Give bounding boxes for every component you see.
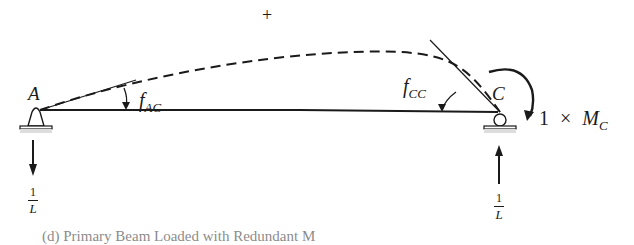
moment-symbol: M [582, 107, 599, 129]
reaction-label-a: 1 L [28, 186, 38, 215]
moment-coefficient: 1 [539, 107, 549, 129]
beam-right [300, 110, 498, 112]
reaction-a-numerator: 1 [30, 186, 36, 198]
deflected-shape [40, 52, 500, 112]
support-label-a: A [28, 84, 40, 103]
reaction-c-numerator: 1 [496, 192, 502, 204]
angle-subscript-a: AC [145, 100, 162, 115]
arc-arrowhead-a [122, 102, 130, 110]
moment-subscript: C [599, 118, 608, 133]
reaction-a-denominator: L [29, 202, 36, 215]
tangent-at-c [430, 40, 500, 112]
tangent-at-a [40, 80, 136, 110]
angle-label-fcc: fCC [403, 76, 426, 96]
reaction-arrow-down-a [29, 140, 37, 176]
support-label-c: C [492, 84, 505, 103]
reaction-label-c: 1 L [494, 192, 504, 221]
figure-caption: (d) Primary Beam Loaded with Redundant M [42, 228, 315, 245]
angle-symbol-c: f [403, 75, 409, 97]
reaction-c-denominator: L [495, 208, 502, 221]
sign-label: + [262, 6, 272, 24]
pin-support-a [20, 108, 52, 133]
angle-subscript-c: CC [409, 86, 426, 101]
times-sign: × [560, 107, 571, 129]
reaction-arrow-up-c [495, 145, 503, 184]
moment-label: 1 × MC [539, 108, 608, 128]
roller-support-c [484, 114, 516, 133]
angle-label-fac: fAC [139, 90, 161, 110]
angle-symbol-a: f [139, 89, 145, 111]
